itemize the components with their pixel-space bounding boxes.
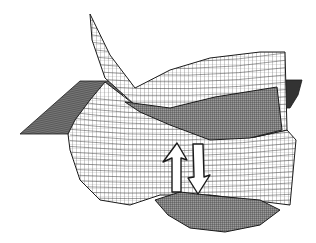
mesh-line (90, 16, 288, 28)
mesh-line (90, 23, 288, 35)
potential-energy-surface-figure (0, 0, 316, 243)
right-asymptote-plane (285, 80, 302, 108)
surface-wireframe-svg (0, 0, 316, 243)
mesh-line (90, 38, 288, 48)
mesh-line (90, 31, 288, 42)
